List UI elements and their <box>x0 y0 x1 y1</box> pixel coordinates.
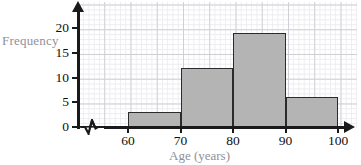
y-axis-tick <box>72 52 79 54</box>
x-axis-tick-label: 70 <box>164 134 198 148</box>
histogram-bar <box>181 68 234 127</box>
x-axis-tick <box>180 126 182 133</box>
x-axis-line <box>77 126 344 129</box>
y-axis-arrow-icon <box>72 1 84 12</box>
y-axis-tick-label: 5 <box>43 95 69 109</box>
x-axis-tick-label: 90 <box>269 134 303 148</box>
x-axis-title: Age (years) <box>0 148 361 164</box>
y-axis-tick <box>72 27 79 29</box>
x-axis-tick <box>285 126 287 133</box>
axis-break-icon <box>80 119 104 135</box>
histogram-bar <box>286 97 339 127</box>
y-axis-title: Frequency <box>2 33 59 49</box>
histogram-bar <box>233 33 286 127</box>
plot-area: 0510152060708090100 Frequency Age (years… <box>0 0 361 165</box>
y-axis-tick-label: 0 <box>43 120 69 134</box>
y-axis-tick <box>72 101 79 103</box>
x-axis-tick-label: 100 <box>321 134 355 148</box>
histogram-chart: 0510152060708090100 Frequency Age (years… <box>0 0 361 165</box>
x-axis-tick <box>127 126 129 133</box>
y-axis-tick <box>72 77 79 79</box>
y-axis-tick <box>72 126 79 128</box>
x-axis-arrow-icon <box>344 121 355 133</box>
x-axis-tick <box>232 126 234 133</box>
x-axis-tick-label: 80 <box>216 134 250 148</box>
x-axis-tick <box>337 126 339 133</box>
x-axis-tick-label: 60 <box>111 134 145 148</box>
y-axis-tick-label: 10 <box>43 71 69 85</box>
histogram-bar <box>128 112 181 127</box>
